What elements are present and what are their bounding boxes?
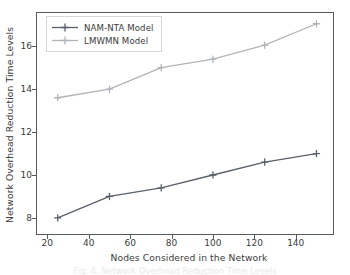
y-tick-mark [32, 132, 36, 133]
series-nam-nta-model [55, 150, 320, 221]
x-tick-mark [89, 235, 90, 239]
x-tick-mark [172, 235, 173, 239]
legend-marker-nam-nta [52, 22, 78, 33]
x-tick-label: 100 [198, 238, 228, 248]
x-axis-label: Nodes Considered in the Network [44, 252, 334, 263]
y-tick-label: 16 [6, 41, 32, 51]
x-tick-mark [47, 235, 48, 239]
x-tick-mark [213, 235, 214, 239]
data-point-marker [158, 185, 164, 191]
data-point-marker [313, 150, 319, 156]
legend-item-lmwmn: LMWMN Model [52, 34, 154, 47]
legend-marker-lmwmn [52, 35, 78, 46]
chart-legend: NAM-NTA Model LMWMN Model [46, 16, 162, 52]
legend-label-nam-nta: NAM-NTA Model [84, 23, 154, 33]
data-point-marker [262, 159, 268, 165]
y-tick-mark [32, 89, 36, 90]
data-point-marker [55, 95, 61, 101]
data-point-marker [210, 172, 216, 178]
x-tick-mark [130, 235, 131, 239]
x-tick-label: 80 [157, 238, 187, 248]
data-point-marker [210, 56, 216, 62]
x-tick-mark [254, 235, 255, 239]
y-tick-label: 14 [6, 84, 32, 94]
series-line [58, 154, 317, 218]
y-tick-label: 10 [6, 170, 32, 180]
y-tick-mark [32, 218, 36, 219]
data-point-marker [262, 42, 268, 48]
y-tick-mark [32, 175, 36, 176]
x-tick-label: 120 [239, 238, 269, 248]
data-point-marker [106, 193, 112, 199]
y-tick-label: 12 [6, 127, 32, 137]
figure-caption: Fig. 4. Network Overhead Reduction Time … [0, 266, 350, 275]
x-tick-mark [296, 235, 297, 239]
y-axis-label: Network Overhead Reduction Time Levels [3, 2, 17, 248]
x-tick-label: 140 [281, 238, 311, 248]
x-tick-label: 20 [32, 238, 62, 248]
chart-figure: Network Overhead Reduction Time Levels 8… [0, 0, 350, 275]
y-tick-mark [32, 46, 36, 47]
data-point-marker [106, 86, 112, 92]
data-point-marker [313, 21, 319, 27]
data-point-marker [158, 65, 164, 71]
legend-item-nam-nta: NAM-NTA Model [52, 21, 154, 34]
x-tick-label: 40 [74, 238, 104, 248]
y-tick-label: 8 [6, 213, 32, 223]
data-point-marker [55, 215, 61, 221]
x-tick-label: 60 [115, 238, 145, 248]
legend-label-lmwmn: LMWMN Model [84, 36, 148, 46]
